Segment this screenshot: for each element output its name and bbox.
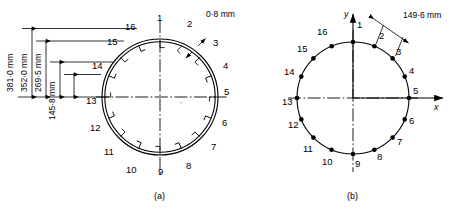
point-number-9: 9 — [355, 158, 360, 169]
thickness-leader-line-2 — [186, 52, 192, 58]
station-number-6: 6 — [222, 117, 227, 128]
x-axis-label: x — [433, 102, 439, 112]
engineering-figure: 381·0 mm 352·0 mm 269·5 mm 145·8 mm 0·8 … — [0, 0, 457, 209]
point-number-6: 6 — [409, 115, 414, 126]
point-number-1: 1 — [357, 19, 362, 30]
station-number-2: 2 — [187, 18, 192, 29]
point-marker-3 — [390, 56, 395, 61]
point-number-16: 16 — [317, 26, 328, 37]
dimension-label-381: 381·0 mm — [5, 54, 15, 92]
station-number-7: 7 — [211, 141, 216, 152]
point-number-15: 15 — [297, 43, 308, 54]
station-number-1: 1 — [157, 12, 162, 23]
station-number-16: 16 — [125, 21, 136, 32]
arc-dimension-label: 149·6 mm — [403, 10, 441, 20]
point-number-14: 14 — [284, 66, 295, 77]
dimension-label-1458: 145·8 mm — [47, 82, 57, 120]
point-marker-11 — [311, 135, 316, 140]
station-number-14: 14 — [92, 60, 103, 71]
point-number-12: 12 — [288, 119, 299, 130]
panel-a: 381·0 mm 352·0 mm 269·5 mm 145·8 mm 0·8 … — [5, 9, 235, 201]
point-marker-1 — [351, 40, 356, 45]
point-number-8: 8 — [377, 151, 382, 162]
point-marker-2 — [372, 44, 377, 49]
point-number-5: 5 — [413, 85, 418, 96]
thickness-leader-line — [198, 39, 206, 47]
point-marker-8 — [372, 147, 377, 152]
station-number-4: 4 — [223, 60, 228, 71]
point-marker-5 — [407, 96, 412, 101]
point-marker-16 — [329, 44, 334, 49]
thickness-label: 0·8 mm — [206, 9, 235, 19]
dimension-label-2695: 269·5 mm — [33, 54, 43, 92]
y-axis-label: y — [343, 9, 349, 19]
point-marker-14 — [299, 74, 304, 79]
point-marker-6 — [402, 117, 407, 122]
panel-b: y x 1 2 — [282, 9, 443, 201]
station-number-5: 5 — [224, 86, 229, 97]
point-marker-7 — [390, 135, 395, 140]
station-number-15: 15 — [107, 36, 118, 47]
station-number-3: 3 — [213, 37, 218, 48]
caption-panel-b: (b) — [347, 191, 358, 201]
point-marker-9 — [351, 152, 356, 157]
point-marker-10 — [329, 147, 334, 152]
point-marker-4 — [402, 74, 407, 79]
point-number-4: 4 — [409, 65, 414, 76]
station-number-13: 13 — [86, 95, 97, 106]
point-number-10: 10 — [322, 156, 333, 167]
station-number-8: 8 — [186, 160, 191, 171]
station-number-9: 9 — [158, 166, 163, 177]
station-number-10: 10 — [126, 164, 137, 175]
point-number-11: 11 — [303, 143, 313, 154]
point-marker-13 — [295, 96, 300, 101]
station-number-11: 11 — [104, 146, 114, 157]
dimension-label-352: 352·0 mm — [19, 54, 29, 92]
point-marker-15 — [311, 56, 316, 61]
point-number-13: 13 — [282, 96, 293, 107]
point-number-7: 7 — [397, 136, 402, 147]
point-marker-12 — [299, 117, 304, 122]
point-number-2: 2 — [379, 30, 384, 41]
caption-panel-a: (a) — [154, 191, 165, 201]
station-number-12: 12 — [90, 122, 101, 133]
